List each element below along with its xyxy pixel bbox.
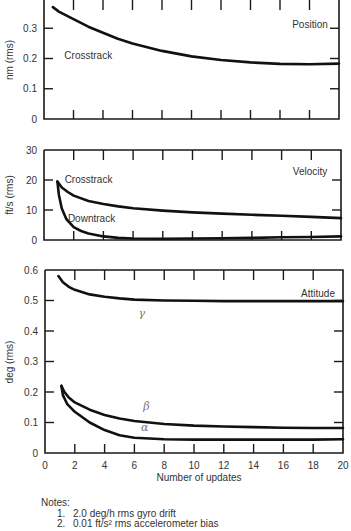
x-tick-label: 20	[337, 460, 349, 471]
y-tick-label: 0	[31, 114, 37, 125]
y-tick-label: 0.2	[24, 387, 38, 398]
series-annotation: Downtrack	[68, 213, 116, 224]
y-tick-label: 0.2	[23, 53, 37, 64]
y-tick-label: 0.3	[24, 356, 38, 367]
y-tick-label: 0.6	[24, 265, 38, 276]
note-text: 2.0 deg/h rms gyro drift	[73, 508, 176, 519]
series-line	[61, 386, 343, 428]
series-annotation: Crosstrack	[65, 174, 114, 185]
x-tick-label: 14	[248, 460, 260, 471]
y-tick-label: 20	[26, 175, 38, 186]
notes: Notes: 1.2.0 deg/h rms gyro drift 2.0.01…	[41, 498, 219, 530]
x-tick-label: 6	[132, 460, 138, 471]
x-axis-label: Number of updates	[156, 472, 241, 483]
figure: 00.10.20.3nm (rms)PositionCrosstrack 010…	[0, 0, 351, 531]
y-tick-label: 10	[26, 205, 38, 216]
y-axis-label: deg (rms)	[4, 341, 15, 384]
panel-title: Attitude	[301, 288, 335, 299]
y-tick-label: 0.1	[24, 417, 38, 428]
y-tick-label: 30	[26, 145, 38, 156]
x-tick-label: 8	[161, 460, 167, 471]
y-tick-label: 0.1	[23, 83, 37, 94]
x-tick-label: 10	[188, 460, 200, 471]
y-tick-label: 0.4	[24, 326, 38, 337]
series-annotation: Crosstrack	[64, 50, 113, 61]
plot-frame	[44, 150, 341, 240]
y-tick-label: 0	[31, 235, 37, 246]
series-annotation: α	[141, 421, 149, 434]
x-tick-label: 4	[102, 460, 108, 471]
x-tick-label: 2	[72, 460, 78, 471]
y-tick-label: 0.3	[23, 23, 37, 34]
y-tick-label: 0.5	[24, 295, 38, 306]
velocity-chart: 0102030ft/s (rms)VelocityCrosstrackDownt…	[4, 145, 341, 246]
series-annotation: β	[142, 400, 149, 413]
y-axis-label: nm (rms)	[4, 40, 15, 80]
position-chart: 00.10.20.3nm (rms)PositionCrosstrack	[4, 0, 339, 125]
x-tick-label: 12	[218, 460, 230, 471]
series-line	[61, 386, 343, 440]
y-axis-label: ft/s (rms)	[4, 175, 15, 214]
x-tick-label: 0	[42, 460, 48, 471]
panel-title: Velocity	[293, 166, 327, 177]
x-tick-label: 16	[278, 460, 290, 471]
note-number: 2.	[57, 519, 73, 530]
attitude-chart: 00.10.20.30.40.50.6deg (rms)Attitudeγβα0…	[4, 265, 349, 484]
x-tick-label: 18	[308, 460, 320, 471]
y-tick-label: 0	[32, 448, 38, 459]
note-item-2: 2.0.01 ft/s² rms accelerometer bias	[41, 519, 219, 530]
series-line	[57, 182, 341, 239]
series-annotation: γ	[139, 307, 146, 320]
note-text: 0.01 ft/s² rms accelerometer bias	[73, 518, 219, 529]
panel-title: Position	[292, 19, 328, 30]
